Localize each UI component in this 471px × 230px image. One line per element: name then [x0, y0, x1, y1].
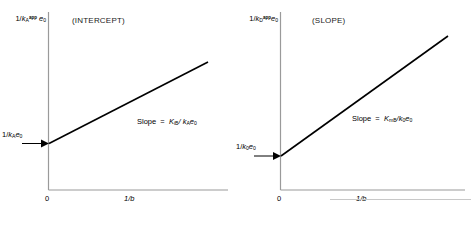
left-y-axis-label: 1/kAapp e0	[2, 14, 46, 23]
panel-title-intercept: (INTERCEPT)	[72, 16, 125, 25]
panel-title-slope: (SLOPE)	[312, 16, 345, 25]
bottom-rule	[330, 199, 471, 200]
left-slope-annotation: Slope = KiB/ kAe0	[137, 117, 197, 126]
right-slope-annotation: Slope = KmB/k0e0	[352, 114, 412, 123]
left-intercept-value-label: 1/kAe0	[2, 130, 22, 139]
left-x-origin-label: 0	[45, 194, 49, 203]
figure-root: (INTERCEPT) 1/kAapp e0 1/kAe0 0 1/b Slop…	[0, 0, 471, 230]
panel-intercept	[0, 0, 236, 230]
right-y-axis-label: 1/kDappe0	[234, 14, 278, 23]
left-x-axis-label: 1/b	[124, 194, 134, 203]
right-x-origin-label: 0	[277, 194, 281, 203]
right-intercept-value-label: 1/k0e0	[236, 142, 256, 151]
